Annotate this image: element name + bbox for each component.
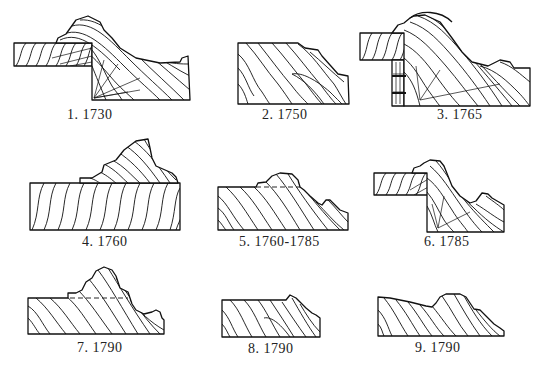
- figure-number: 4.: [82, 234, 94, 249]
- caption-fig-4: 4. 1760: [82, 234, 128, 250]
- profile-1785: [374, 160, 504, 232]
- figure-year: 1785: [440, 234, 470, 249]
- profile-1750: [238, 43, 349, 104]
- figure-number: 3.: [437, 107, 449, 122]
- caption-fig-3: 3. 1765: [437, 107, 483, 123]
- caption-fig-7: 7. 1790: [77, 340, 123, 356]
- figure-year: 1790: [93, 340, 123, 355]
- caption-fig-5: 5. 1760-1785: [239, 234, 320, 250]
- figure-year: 1790: [264, 341, 294, 356]
- caption-fig-9: 9. 1790: [415, 340, 461, 356]
- figure-year: 1765: [453, 107, 483, 122]
- profile-1760: [30, 139, 182, 230]
- figure-number: 8.: [248, 341, 260, 356]
- figure-number: 5.: [239, 234, 251, 249]
- figure-year: 1760-1785: [255, 234, 320, 249]
- figure-number: 6.: [424, 234, 436, 249]
- profile-1790-a: [28, 267, 164, 334]
- figure-year: 1750: [278, 107, 308, 122]
- profile-1730: [14, 16, 190, 100]
- molding-profiles-diagram: [0, 0, 539, 374]
- figure-number: 2.: [262, 107, 274, 122]
- figure-number: 7.: [77, 340, 89, 355]
- figure-number: 9.: [415, 340, 427, 355]
- profile-1790-b: [222, 295, 320, 337]
- figure-year: 1730: [83, 107, 113, 122]
- figure-year: 1760: [98, 234, 128, 249]
- profile-1765: [360, 12, 530, 106]
- profile-1760-1785: [218, 173, 348, 230]
- caption-fig-1: 1. 1730: [67, 107, 113, 123]
- caption-fig-6: 6. 1785: [424, 234, 470, 250]
- caption-fig-2: 2. 1750: [262, 107, 308, 123]
- figure-number: 1.: [67, 107, 79, 122]
- caption-fig-8: 8. 1790: [248, 341, 294, 357]
- profile-1790-c: [378, 294, 504, 336]
- figure-year: 1790: [431, 340, 461, 355]
